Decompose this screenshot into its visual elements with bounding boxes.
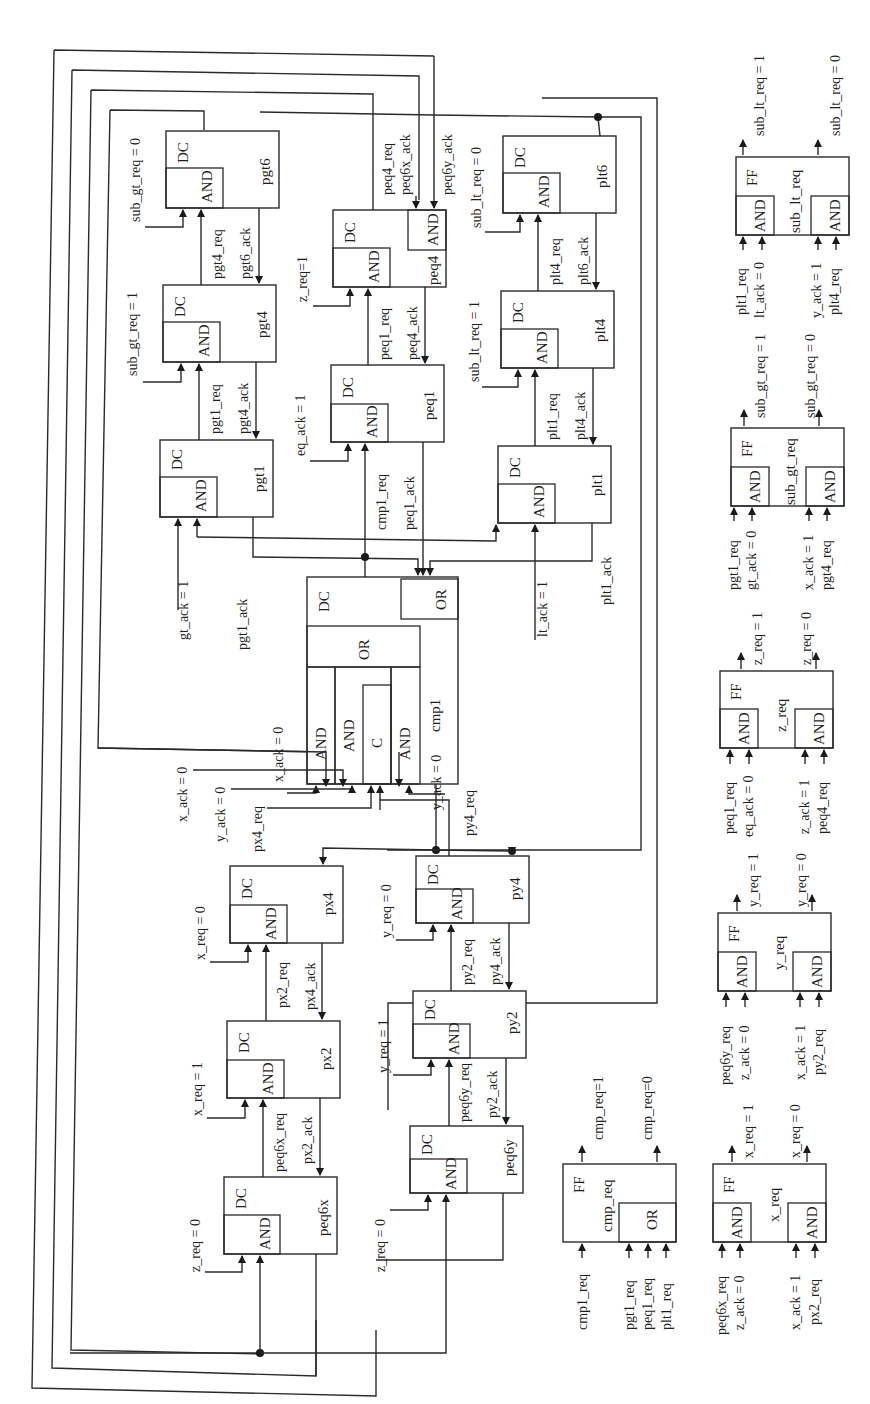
dc-label: DC (342, 222, 358, 243)
dc-block-py4: DC AND py4 (416, 856, 529, 923)
ff-input-label: x_ack = 1 (788, 1275, 803, 1330)
signal-label: peq1_ack (402, 476, 417, 530)
signal-label: py4_req (462, 790, 477, 836)
junction-dot (594, 113, 602, 121)
ff-input-label: peq6x_req (714, 1276, 729, 1335)
ff-input-label: plt1_req (659, 1283, 674, 1330)
wire-pgt6-feed (260, 112, 434, 115)
ff-output-label: sub_gt_req = 0 (803, 334, 818, 418)
block-name: py2 (504, 1012, 520, 1035)
and-label: AND (736, 712, 752, 745)
dc-block-pgt4: DC AND pgt4 (163, 285, 276, 362)
dc-block-peq6x: DC AND peq6x (224, 1177, 337, 1254)
and-label: AND (804, 1206, 820, 1239)
signal-label: plt1_ack (599, 557, 614, 605)
and-label: AND (734, 955, 750, 988)
dc-block-cmp1: DC OR OR AND AND C AND cmp1 (307, 577, 458, 784)
dc-label: DC (316, 591, 332, 612)
block-name: peq6y (501, 1139, 517, 1176)
block-name: px2 (318, 1048, 334, 1071)
and-label: AND (341, 719, 357, 752)
ff-input-label: gt_ack = 0 (744, 531, 759, 590)
signal-label: plt6_ack (576, 237, 591, 285)
block-name: plt4 (592, 318, 608, 342)
c-element-label: C (369, 738, 385, 748)
ff-input-label: peq6y_req (718, 1026, 733, 1085)
and-label: AND (446, 1022, 462, 1055)
ff-input-label: plt4_req (827, 268, 842, 315)
and-label: AND (449, 887, 465, 920)
ff-input-label: z_ack = 1 (797, 779, 812, 834)
signal-label: y_ack = 0 (213, 787, 228, 842)
and-label: AND (811, 712, 827, 745)
signal-label: lt_ack = 1 (535, 581, 550, 637)
signal-label: peq1_req (377, 308, 392, 360)
ff-block-sub-gt-req: FF AND AND sub_gt_req sub_gt_req = 1 sub… (726, 334, 844, 590)
dc-label: DC (172, 296, 188, 317)
dc-block-peq4: DC AND AND peq4 (333, 210, 446, 287)
signal-label: sub_gt_req = 1 (125, 292, 140, 376)
ff-input-label: x_ack = 1 (801, 535, 816, 590)
ff-name: z_req (773, 698, 789, 732)
and-label: AND (193, 479, 209, 512)
ff-output-label: y_req = 0 (794, 853, 809, 907)
signal-label: pgt1_req (208, 384, 223, 434)
signal-label: gt_ack = 1 (176, 581, 191, 640)
and-label: AND (809, 955, 825, 988)
signal-label: plt4_ack (573, 392, 588, 440)
block-name: pgt6 (257, 158, 273, 185)
block-name: peq1 (421, 391, 437, 420)
ff-name: y_req (771, 935, 787, 970)
signal-label: py2_ack (485, 1071, 500, 1118)
signal-label: x_req = 1 (190, 1062, 205, 1116)
signal-label: sub_lt_req = 1 (467, 301, 482, 382)
signal-label: z_req = 0 (373, 1219, 388, 1272)
ff-output-label: sub_lt_req = 1 (752, 55, 767, 136)
dc-label: DC (419, 1134, 435, 1155)
signal-label: peq6y_req (457, 1063, 472, 1122)
block-name: plt1 (589, 473, 605, 496)
ff-output-label: sub_gt_req = 1 (753, 334, 768, 418)
block-name: pgt4 (254, 311, 270, 338)
block-name: pgt1 (251, 465, 267, 492)
signal-label: py2_req (460, 939, 475, 985)
ff-input-label: z_ack = 0 (732, 1275, 747, 1330)
ff-input-label: peq4_req (815, 782, 830, 834)
ff-input-label: eq_ack = 0 (741, 775, 756, 837)
ff-input-label: lt_ack = 0 (752, 262, 767, 318)
signal-label: sub_gt_req = 0 (128, 138, 143, 222)
signal-label: peq6y_ack (440, 134, 455, 195)
signal-label: plt1_req (545, 393, 560, 440)
signal-label: y_ack = 0 (429, 755, 444, 810)
ff-block-z-req: FF AND AND z_req z_req = 1 z_req = 0 peq… (720, 612, 833, 837)
ff-block-sub-lt-req: FF AND AND sub_lt_req sub_lt_req = 1 sub… (734, 55, 849, 318)
dc-block-py2: DC AND py2 (413, 991, 526, 1058)
or-label: OR (644, 1209, 660, 1230)
signal-label: z_req=1 (295, 256, 310, 302)
ff-output-label: x_req = 1 (741, 1104, 756, 1158)
ff-label: FF (739, 440, 755, 457)
dc-block-plt4: DC AND plt4 (501, 291, 614, 368)
and-label: AND (443, 1157, 459, 1190)
ff-input-label: pgt1_req (622, 1280, 637, 1330)
or-label: OR (356, 639, 372, 660)
and-label: AND (747, 470, 763, 503)
and-label: AND (822, 470, 838, 503)
ff-output-label: z_req = 1 (750, 612, 765, 665)
ff-input-label: peq1_req (640, 1278, 655, 1330)
signal-label: pgt1_ack (235, 599, 250, 650)
block-name: py4 (507, 877, 523, 900)
and-label: AND (729, 1206, 745, 1239)
dc-block-px4: DC AND px4 (230, 866, 343, 943)
and-label: AND (199, 170, 215, 203)
block-name: peq4 (425, 255, 441, 285)
and-label: AND (536, 175, 552, 208)
ff-name: x_req (766, 1187, 782, 1222)
and-label: AND (263, 907, 279, 940)
signal-label: py4_ack (488, 938, 503, 985)
ff-output-label: x_req = 0 (788, 1104, 803, 1158)
dc-label: DC (239, 878, 255, 899)
and-label: AND (366, 250, 382, 283)
signal-label: pgt4_req (210, 229, 225, 279)
ff-input-label: cmp1_req (575, 1274, 590, 1330)
